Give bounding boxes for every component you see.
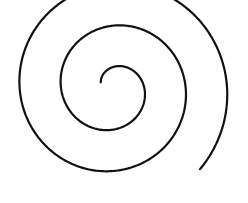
spiral-figure: Spiral Line Drawing bbox=[0, 0, 248, 203]
canvas-background bbox=[0, 0, 248, 203]
drawing-canvas: Spiral Line Drawing bbox=[0, 0, 248, 203]
